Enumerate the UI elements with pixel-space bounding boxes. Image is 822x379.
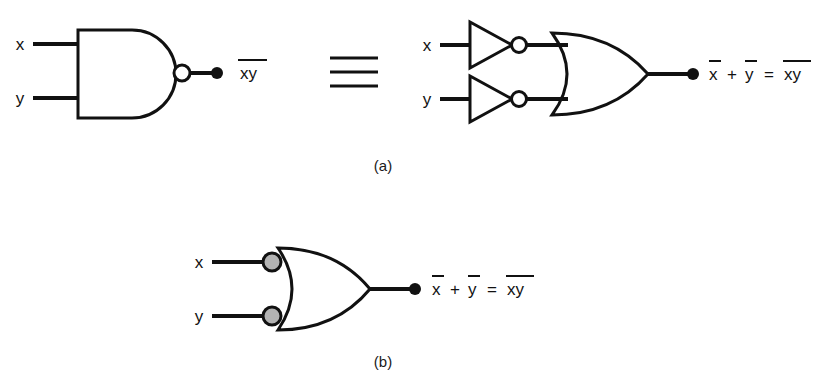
not-gate-bottom-bubble [512, 92, 527, 107]
panel-b-expr-equals: = [487, 280, 497, 299]
panel-b-expr-term2: y [468, 280, 477, 299]
logic-diagram-figure: x y xy [0, 0, 822, 379]
panel-b-input-x-label: x [195, 253, 204, 272]
or-expr-term2: y [745, 65, 754, 84]
figure-background [0, 0, 822, 379]
nand-output-terminal-dot [211, 67, 223, 79]
panel-b-expr-term3: xy [507, 280, 525, 299]
panel-b-input-x-bubble [263, 253, 281, 271]
panel-b-expr-term1: x [432, 280, 441, 299]
panel-b-output-terminal-dot [409, 283, 421, 295]
panel-b-caption: (b) [374, 353, 392, 370]
panel-b-expr-plus: + [450, 280, 460, 299]
panel-b-input-y-bubble [263, 307, 281, 325]
or-expr-equals: = [764, 65, 774, 84]
or-network-input-y-label: y [423, 90, 432, 109]
panel-a-caption: (a) [374, 157, 392, 174]
nand-input-x-label: x [16, 35, 25, 54]
not-gate-top-bubble [512, 38, 527, 53]
logic-diagram-svg: x y xy [0, 0, 822, 379]
nand-output-label: xy [240, 64, 258, 83]
or-expr-term3: xy [784, 65, 802, 84]
panel-b-input-y-label: y [195, 307, 204, 326]
or-network-input-x-label: x [423, 36, 432, 55]
or-gate-output-terminal-dot [687, 68, 699, 80]
or-expr-term1: x [709, 65, 718, 84]
or-expr-plus: + [727, 65, 737, 84]
nand-input-y-label: y [16, 89, 25, 108]
nand-output-bubble [174, 65, 190, 81]
